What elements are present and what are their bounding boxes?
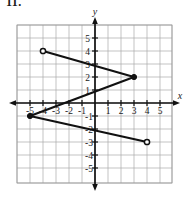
y-tick-label-5: 5 [85,34,90,44]
y-tick-label--3: -3 [85,138,93,148]
x-axis-arrow-right [173,100,180,106]
open-endpoint-upper-left-marker [40,48,45,53]
x-tick-label-2: 2 [119,106,124,116]
y-tick-label-4: 4 [85,47,90,57]
x-tick-label-1: 1 [106,106,111,116]
x-axis-arrow-left [9,100,16,106]
y-tick-label--5: -5 [85,164,93,174]
graph-figure: 11. [0,0,187,199]
x-tick-label--2: -2 [65,106,73,116]
plotted-curve [30,51,147,142]
open-endpoint-lower-right-marker [144,139,149,144]
x-tick-label-3: 3 [132,106,137,116]
x-tick-label-4: 4 [145,106,150,116]
x-axis-label: x [177,90,183,101]
x-tick-label-5: 5 [158,106,163,116]
y-axis-arrow-down [92,184,98,191]
y-axis-arrow-up [92,17,98,24]
closed-vertex-left-marker [27,113,32,118]
y-axis-label: y [92,6,98,17]
y-tick-label--1: -1 [85,112,93,122]
y-tick-label-2: 2 [85,73,90,83]
coordinate-plane-graph: -5 -4 -3 -2 -1 1 2 3 4 5 5 4 3 2 1 -1 -2… [0,0,187,199]
y-tick-label--4: -4 [85,151,93,161]
closed-vertex-right-marker [131,74,136,79]
